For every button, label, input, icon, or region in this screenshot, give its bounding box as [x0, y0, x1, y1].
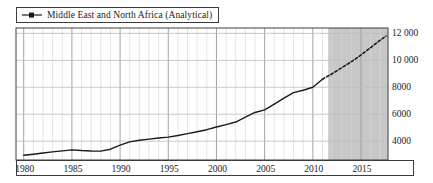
x-axis-tick-label: 1990	[112, 162, 131, 176]
x-axis-tick-label: 2000	[208, 162, 227, 176]
x-axis-tick-label: 1995	[160, 162, 179, 176]
y-axis-tick-label: 10 000	[392, 55, 418, 65]
legend-label: Middle East and North Africa (Analytical…	[47, 9, 212, 21]
x-axis-tick-label: 1980	[15, 162, 34, 176]
x-axis-tick-label: 2015	[353, 162, 372, 176]
legend-marker-icon	[22, 11, 42, 19]
chart-plot-area	[0, 0, 433, 183]
chart-legend: Middle East and North Africa (Analytical…	[16, 7, 219, 23]
x-axis-tick-label: 2005	[256, 162, 275, 176]
y-axis-tick-label: 8000	[392, 82, 411, 92]
y-axis-tick-label: 6000	[392, 109, 411, 119]
x-axis-label-band: 19801985199019952000200520102015	[16, 160, 414, 176]
y-axis-tick-label: 4000	[392, 136, 411, 146]
forecast-shaded-region	[328, 28, 388, 160]
x-axis-tick-label: 2010	[304, 162, 323, 176]
y-axis-tick-label: 12 000	[392, 28, 418, 38]
chart-container: 40006000800010 00012 000 Middle East and…	[0, 0, 433, 183]
legend-entry: Middle East and North Africa (Analytical…	[22, 9, 212, 21]
x-axis-tick-label: 1985	[63, 162, 82, 176]
